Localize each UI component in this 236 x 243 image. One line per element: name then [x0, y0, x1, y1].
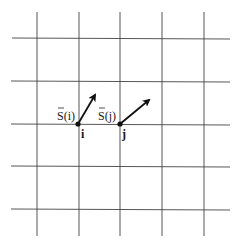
- grid-h-4: [11, 166, 230, 167]
- site-label-j: j: [121, 127, 126, 141]
- grid-h-1: [12, 38, 230, 39]
- site-i: S(i) i: [57, 95, 95, 141]
- grid-h-5: [11, 209, 230, 210]
- lattice-diagram: S(i) i S(j) j: [0, 0, 236, 243]
- site-label-i: i: [81, 127, 85, 141]
- grid-h-2: [11, 81, 230, 82]
- site-j: S(j) j: [98, 100, 149, 141]
- spin-label-j: S(j): [98, 109, 116, 123]
- site-dot-j: [117, 121, 122, 126]
- spin-arrow-i: [78, 95, 95, 124]
- spin-label-i: S(i): [57, 109, 75, 123]
- spin-arrow-j: [120, 100, 149, 124]
- site-dot-i: [75, 121, 80, 126]
